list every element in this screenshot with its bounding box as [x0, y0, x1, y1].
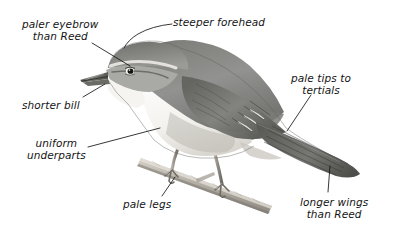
bird-illustration-figure: paler eyebrow than Reed steeper forehead…	[0, 0, 393, 235]
leader-shorter-bill	[83, 84, 105, 97]
annotation-paler-eyebrow: paler eyebrow than Reed	[22, 18, 99, 42]
annotation-uniform-underparts: uniform underparts	[27, 137, 86, 161]
annotation-pale-tips-to-tertials: pale tips to tertials	[291, 72, 351, 96]
leader-paler-eyebrow	[92, 43, 130, 66]
leader-uniform-underparts	[88, 128, 160, 147]
annotation-pale-legs: pale legs	[123, 198, 171, 210]
leader-pale-tips	[287, 95, 311, 131]
annotation-longer-wings: longer wings than Reed	[300, 196, 368, 220]
annotation-steeper-forehead: steeper forehead	[173, 16, 265, 28]
annotation-shorter-bill: shorter bill	[22, 99, 80, 111]
leader-pale-legs	[162, 177, 175, 196]
leader-longer-wings	[328, 166, 330, 192]
leader-steeper-forehead	[124, 24, 172, 48]
